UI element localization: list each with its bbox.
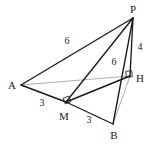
geometry-figure: PAMBH 64633 xyxy=(0,0,153,145)
edge-P-M xyxy=(66,18,133,102)
vertex-label-h: H xyxy=(136,73,144,84)
vertex-label-b: B xyxy=(110,130,117,141)
edge-A-P xyxy=(21,18,133,85)
edge-A-H xyxy=(21,76,130,85)
length-AM: 3 xyxy=(40,98,45,108)
length-AP: 6 xyxy=(65,36,70,46)
vertex-label-m: M xyxy=(59,111,69,122)
figure-canvas xyxy=(0,0,153,145)
vertex-label-a: A xyxy=(8,80,16,91)
length-MB: 3 xyxy=(87,115,92,125)
length-PH: 4 xyxy=(138,42,143,52)
dark-edge-group xyxy=(21,18,133,124)
vertex-label-p: P xyxy=(130,4,136,15)
length-PM: 6 xyxy=(112,57,117,67)
edge-B-H xyxy=(113,76,130,124)
